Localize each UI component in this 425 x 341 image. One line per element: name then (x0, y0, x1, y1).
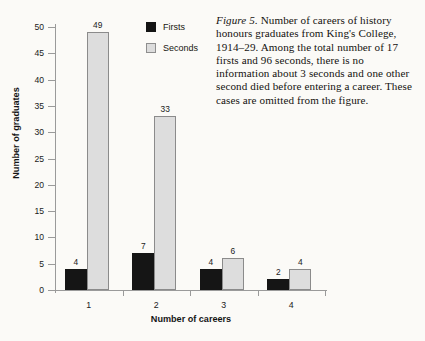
y-tick-label: 15 (14, 206, 44, 216)
plot-area: 4497334624 (55, 27, 325, 290)
bar-value-label: 49 (81, 20, 115, 30)
x-tick-label-4: 4 (276, 300, 306, 310)
y-tick-mark (48, 290, 56, 291)
bar-firsts-group-1 (65, 269, 87, 290)
bar-firsts-group-4 (267, 279, 289, 290)
y-tick-label: 50 (14, 22, 44, 32)
y-axis-title: Number of graduates (11, 73, 21, 193)
bar-value-label: 33 (148, 104, 182, 114)
x-axis-title: Number of careers (55, 314, 327, 324)
bar-value-label: 6 (216, 246, 250, 256)
x-tick-label-1: 1 (74, 300, 104, 310)
x-tick-label-3: 3 (209, 300, 239, 310)
bar-seconds-group-3 (222, 258, 244, 290)
x-tick-mark (258, 290, 259, 296)
y-tick-label: 5 (14, 259, 44, 269)
x-tick-mark (190, 290, 191, 296)
bar-seconds-group-2 (154, 116, 176, 290)
x-axis-line (55, 290, 327, 291)
bar-seconds-group-4 (289, 269, 311, 290)
y-tick-label: 10 (14, 232, 44, 242)
x-tick-mark (325, 290, 326, 296)
x-tick-label-2: 2 (141, 300, 171, 310)
y-tick-label: 0 (14, 285, 44, 295)
figure-page: Figure 5. Number of careers of history h… (0, 0, 425, 341)
y-tick-label: 45 (14, 48, 44, 58)
bar-firsts-group-2 (132, 253, 154, 290)
bar-firsts-group-3 (200, 269, 222, 290)
bar-seconds-group-1 (87, 32, 109, 290)
bar-value-label: 4 (283, 257, 317, 267)
figure-number: Figure 5. (216, 14, 258, 26)
x-tick-mark (123, 290, 124, 296)
